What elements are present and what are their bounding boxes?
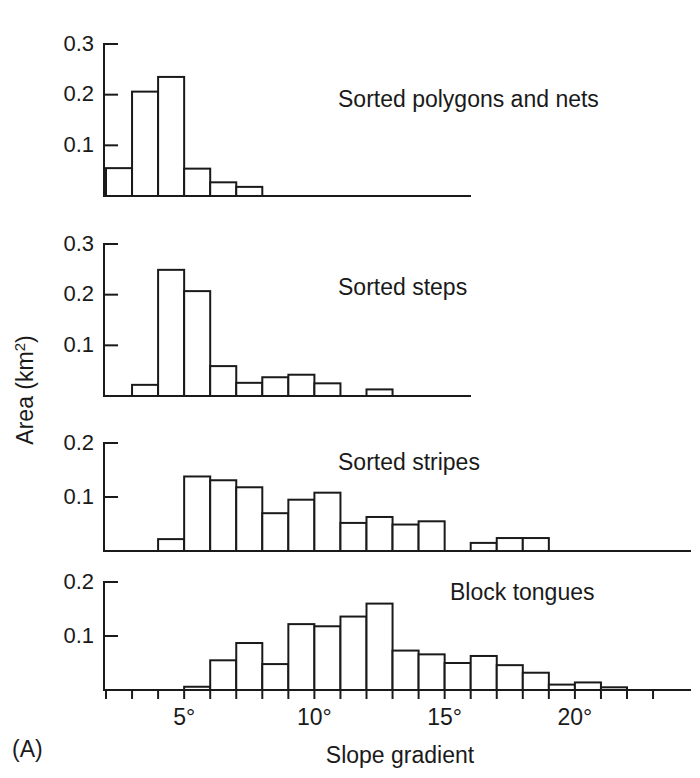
histogram-bar bbox=[106, 168, 132, 196]
y-tick-label-sorted-stripes-0: 0.1 bbox=[63, 484, 94, 509]
y-axis-title: Area (km2) bbox=[11, 335, 38, 444]
histogram-bar bbox=[497, 665, 523, 690]
histogram-bar bbox=[132, 385, 158, 396]
y-tick-label-sorted-polygons-and-nets-2: 0.3 bbox=[63, 31, 94, 56]
histogram-bar bbox=[158, 77, 184, 196]
histogram-bar bbox=[340, 523, 366, 551]
histogram-bar bbox=[184, 169, 210, 196]
histogram-bar bbox=[262, 664, 288, 690]
histogram-bar bbox=[549, 685, 575, 690]
figure-container: 0.10.20.3Sorted polygons and nets0.10.20… bbox=[0, 0, 700, 778]
histogram-bar bbox=[236, 487, 262, 551]
histogram-bar bbox=[210, 366, 236, 396]
histogram-bar bbox=[184, 476, 210, 551]
histogram-bar bbox=[393, 651, 419, 690]
x-axis-title: Slope gradient bbox=[326, 742, 475, 768]
histogram-bar bbox=[419, 521, 445, 551]
histogram-bar bbox=[419, 654, 445, 690]
y-tick-label-sorted-polygons-and-nets-1: 0.2 bbox=[63, 81, 94, 106]
histogram-bar bbox=[367, 517, 393, 551]
histogram-bar bbox=[471, 543, 497, 551]
histogram-bar bbox=[288, 375, 314, 396]
panel-letter: (A) bbox=[12, 736, 43, 762]
histogram-bar bbox=[367, 389, 393, 396]
y-tick-label-sorted-steps-0: 0.1 bbox=[63, 332, 94, 357]
histogram-bar bbox=[288, 624, 314, 690]
histogram-bar bbox=[471, 656, 497, 690]
histogram-bar bbox=[314, 383, 340, 396]
histogram-bar bbox=[158, 270, 184, 396]
histogram-bar bbox=[184, 687, 210, 690]
x-tick-label-3: 20° bbox=[558, 704, 593, 730]
histogram-bar bbox=[210, 480, 236, 551]
y-tick-label-sorted-steps-1: 0.2 bbox=[63, 281, 94, 306]
slope-gradient-histogram-figure: 0.10.20.3Sorted polygons and nets0.10.20… bbox=[0, 0, 700, 778]
histogram-bar bbox=[158, 539, 184, 551]
y-axis-title-main: Area (km bbox=[12, 351, 38, 444]
histogram-bar bbox=[210, 182, 236, 196]
histogram-bar bbox=[367, 604, 393, 690]
histogram-bar bbox=[497, 538, 523, 551]
y-tick-label-block-tongues-0: 0.1 bbox=[63, 623, 94, 648]
histogram-bar bbox=[236, 383, 262, 396]
y-axis-title-close: ) bbox=[12, 335, 38, 343]
histogram-bar bbox=[262, 513, 288, 551]
histogram-bar bbox=[236, 643, 262, 690]
histogram-bar bbox=[601, 687, 627, 690]
histogram-bar bbox=[132, 92, 158, 196]
histogram-bar bbox=[523, 538, 549, 551]
histogram-bar bbox=[262, 377, 288, 396]
histogram-bar bbox=[314, 626, 340, 690]
x-tick-label-0: 5° bbox=[173, 704, 195, 730]
histogram-bar bbox=[210, 660, 236, 690]
panel-title-sorted-steps: Sorted steps bbox=[338, 274, 467, 300]
histogram-bar bbox=[314, 493, 340, 551]
y-axis-title-superscript: 2 bbox=[11, 343, 28, 351]
histogram-bar bbox=[288, 500, 314, 551]
y-tick-label-sorted-stripes-1: 0.2 bbox=[63, 430, 94, 455]
histogram-bar bbox=[393, 525, 419, 551]
y-tick-label-sorted-polygons-and-nets-0: 0.1 bbox=[63, 132, 94, 157]
histogram-bar bbox=[523, 673, 549, 690]
histogram-bar bbox=[445, 663, 471, 690]
x-tick-label-2: 15° bbox=[427, 704, 462, 730]
histogram-bar bbox=[340, 617, 366, 690]
histogram-bar bbox=[184, 291, 210, 396]
histogram-bar bbox=[236, 187, 262, 196]
panel-title-sorted-stripes: Sorted stripes bbox=[338, 449, 480, 475]
x-tick-label-1: 10° bbox=[297, 704, 332, 730]
y-tick-label-sorted-steps-2: 0.3 bbox=[63, 231, 94, 256]
histogram-bar bbox=[575, 682, 601, 690]
panel-title-block-tongues: Block tongues bbox=[450, 579, 594, 605]
y-tick-label-block-tongues-1: 0.2 bbox=[63, 569, 94, 594]
panel-title-sorted-polygons-and-nets: Sorted polygons and nets bbox=[338, 86, 599, 112]
